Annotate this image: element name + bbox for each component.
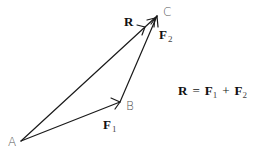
equation-term2-subscript: 2 (242, 90, 247, 100)
equation-equals: = (192, 83, 199, 98)
vector-label-f2: F2 (159, 28, 172, 44)
point-label-b: B (126, 100, 134, 112)
vector-label-r: R (124, 15, 133, 28)
vector-r-symbol: R (124, 14, 133, 29)
equation-plus: + (222, 83, 229, 98)
vector-f2-symbol: F (159, 27, 167, 42)
point-label-c: C (163, 6, 171, 18)
point-label-a: A (8, 136, 16, 148)
resultant-equation: R=F1+F2 (178, 84, 247, 100)
vector-diagram: A B C R F2 F1 R=F1+F2 (0, 0, 257, 157)
equation-lhs: R (178, 83, 187, 98)
vector-r-line (21, 16, 157, 141)
vector-f1-symbol: F (103, 117, 111, 132)
vector-label-f1: F1 (103, 118, 116, 134)
vector-f2-subscript: 2 (168, 34, 173, 44)
equation-term1: F (205, 83, 213, 98)
vector-f1-subscript: 1 (112, 124, 117, 134)
equation-term1-subscript: 1 (213, 90, 218, 100)
